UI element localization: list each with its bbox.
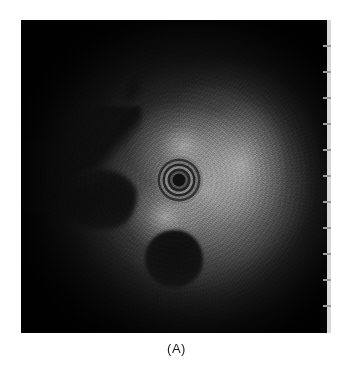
scale-tick: [323, 71, 331, 73]
anechoic-region-left-head: [59, 168, 137, 230]
figure-root: (A): [0, 0, 353, 365]
dark-streak-upper: [115, 65, 150, 108]
scale-tick: [323, 305, 331, 307]
scale-tick: [323, 97, 331, 99]
scale-tick: [323, 253, 331, 255]
scale-tick: [323, 227, 331, 229]
ultrasound-image-panel: [21, 20, 327, 333]
depth-scale-bar: [327, 20, 331, 333]
scale-tick: [323, 149, 331, 151]
scale-tick: [323, 45, 331, 47]
catheter-core: [173, 174, 186, 187]
scale-tick: [323, 279, 331, 281]
scale-tick: [323, 201, 331, 203]
anechoic-region-lower: [145, 230, 203, 288]
scale-tick: [323, 175, 331, 177]
catheter-ring-artifact: [155, 156, 203, 204]
scale-tick: [323, 123, 331, 125]
figure-caption: (A): [0, 341, 353, 356]
